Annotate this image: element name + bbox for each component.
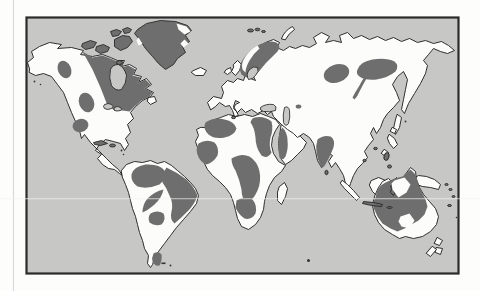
caspian-sea	[283, 107, 290, 125]
svalbard-1	[248, 29, 254, 32]
southampton-island	[117, 61, 123, 65]
vanuatu	[452, 196, 455, 198]
new-caledonia	[448, 205, 452, 207]
scan-artifact-line	[0, 198, 480, 199]
great-lakes-west	[104, 104, 114, 110]
great-lakes-east	[114, 107, 122, 112]
antilles-speck-1	[121, 150, 123, 152]
solomons-2	[449, 189, 452, 191]
aleutian-speck-2	[40, 84, 42, 86]
sicily	[232, 116, 236, 118]
indian-ocean-speck	[307, 259, 310, 262]
antilles-speck-2	[123, 154, 125, 156]
sri-lanka	[325, 170, 328, 174]
kuril-speck	[405, 121, 407, 123]
svalbard-2	[255, 28, 260, 31]
lesser-sunda	[387, 207, 392, 209]
taiwan	[374, 147, 378, 149]
philippines-mindanao	[388, 165, 392, 168]
south-brazil-patch	[149, 212, 165, 226]
falkland-speck	[162, 263, 166, 265]
hainan	[363, 159, 366, 161]
aleutian-speck-1	[34, 81, 36, 83]
scanned-page	[0, 0, 480, 291]
svalbard-3	[262, 31, 266, 33]
solomons-1	[445, 184, 448, 186]
south-atlantic-speck	[170, 265, 172, 267]
world-map-figure	[0, 0, 480, 291]
kazakh-patch	[296, 105, 302, 109]
pacific-speck-1	[456, 217, 458, 219]
hispaniola	[110, 144, 116, 147]
